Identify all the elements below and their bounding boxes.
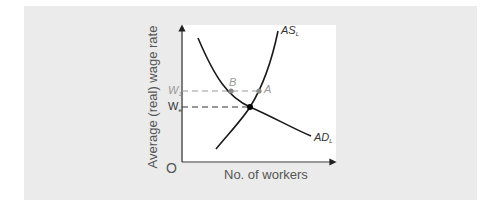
x-axis-label: No. of workers [224,167,308,182]
point-a-label: A [264,83,271,95]
w1-label: W1 [168,84,182,97]
we-label: We [168,100,182,113]
y-axis-label: Average (real) wage rate [145,26,160,169]
equilibrium-point [247,104,253,110]
demand-curve [198,38,311,136]
origin-label: O [166,160,177,176]
point-b-label: B [229,76,236,88]
demand-curve-label: ADL [314,131,333,144]
point-a [256,88,261,93]
supply-curve-label: ASL [281,24,299,37]
point-b [228,88,233,93]
